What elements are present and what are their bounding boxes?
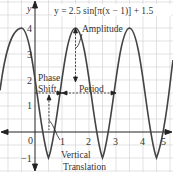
x-tick-0: 0 (28, 135, 33, 146)
y-tick-2: 2 (27, 75, 32, 86)
y-tick-neg1: −1 (21, 153, 32, 164)
amplitude-label: Amplitude (82, 24, 123, 34)
y-axis-label: y (26, 3, 32, 14)
x-tick-2: 2 (86, 136, 91, 147)
x-tick-4: 4 (140, 136, 145, 147)
y-tick-1: 1 (27, 100, 32, 111)
shift-label: Shift (38, 84, 57, 94)
period-label: Period (79, 84, 104, 94)
x-tick-5: 5 (161, 136, 166, 147)
x-tick-1: 1 (60, 136, 65, 147)
phase-label: Phase (38, 73, 60, 83)
translation-label: Translation (63, 162, 106, 172)
annotation-labels: y = 2.5 sin[π(x − 1)] + 1.5 Amplitude Ph… (38, 4, 171, 172)
sine-graph: 0 1 2 3 4 5 1 2 3 4 −1 y y = 2.5 sin[π(x… (0, 0, 173, 172)
y-tick-4: 4 (27, 23, 32, 34)
x-tick-3: 3 (113, 136, 118, 147)
equation-label: y = 2.5 sin[π(x − 1)] + 1.5 (54, 6, 153, 17)
vertical-label: Vertical (61, 150, 91, 160)
y-tick-3: 3 (27, 49, 32, 60)
